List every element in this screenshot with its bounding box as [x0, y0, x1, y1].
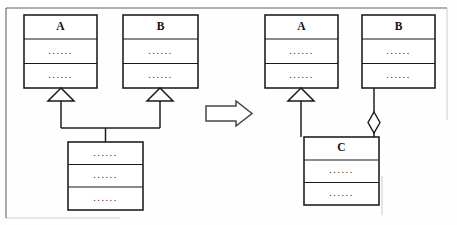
class-attributes-c-right: ...... [329, 164, 354, 175]
class-title-b-right: B [395, 20, 403, 32]
class-title-b-left: B [157, 20, 165, 32]
class-attributes-b-left: ...... [148, 45, 173, 56]
class-operations-b-right: ...... [386, 69, 411, 80]
class-attributes-a-right: ...... [289, 45, 314, 56]
class-title-a-right: A [297, 20, 306, 32]
class-box-b-right[interactable]: B ...... ...... [362, 15, 435, 88]
class-attributes-b-right: ...... [386, 45, 411, 56]
hollow-triangle-icon [288, 88, 314, 101]
subclass-compartment-1: ...... [93, 147, 118, 158]
class-attributes-a-left: ...... [48, 45, 73, 56]
generalization-c-to-a[interactable] [288, 88, 314, 137]
class-box-a-left[interactable]: A ...... ...... [24, 15, 97, 88]
transformation-arrow[interactable] [206, 101, 252, 126]
class-box-subclass-left[interactable]: ...... ...... ...... [68, 142, 143, 210]
hollow-triangle-icon [48, 88, 74, 101]
hollow-triangle-icon [147, 88, 173, 101]
class-box-a-right[interactable]: A ...... ...... [265, 15, 338, 88]
subclass-compartment-2: ...... [93, 169, 118, 180]
subclass-compartment-3: ...... [93, 192, 118, 203]
aggregation-b-to-c[interactable] [368, 88, 380, 137]
right-arrow-icon [206, 101, 252, 126]
uml-class-diagram: A ...... ...... B ...... ...... [0, 0, 457, 225]
inheritance-join-bar [61, 128, 160, 142]
class-title-a-left: A [56, 20, 65, 32]
generalization-subclass-to-b[interactable] [147, 88, 173, 128]
class-title-c-right: C [337, 141, 345, 153]
class-box-b-left[interactable]: B ...... ...... [123, 15, 198, 88]
class-operations-b-left: ...... [148, 69, 173, 80]
left-side-group: A ...... ...... B ...... ...... [24, 15, 198, 210]
diagram-canvas: A ...... ...... B ...... ...... [0, 0, 457, 225]
class-operations-c-right: ...... [329, 187, 354, 198]
class-operations-a-right: ...... [289, 69, 314, 80]
class-operations-a-left: ...... [48, 69, 73, 80]
right-side-group: A ...... ...... B ...... ...... [265, 15, 435, 205]
generalization-subclass-to-a[interactable] [48, 88, 74, 128]
class-box-c-right[interactable]: C ...... ...... [304, 137, 379, 205]
hollow-diamond-icon [368, 112, 380, 133]
